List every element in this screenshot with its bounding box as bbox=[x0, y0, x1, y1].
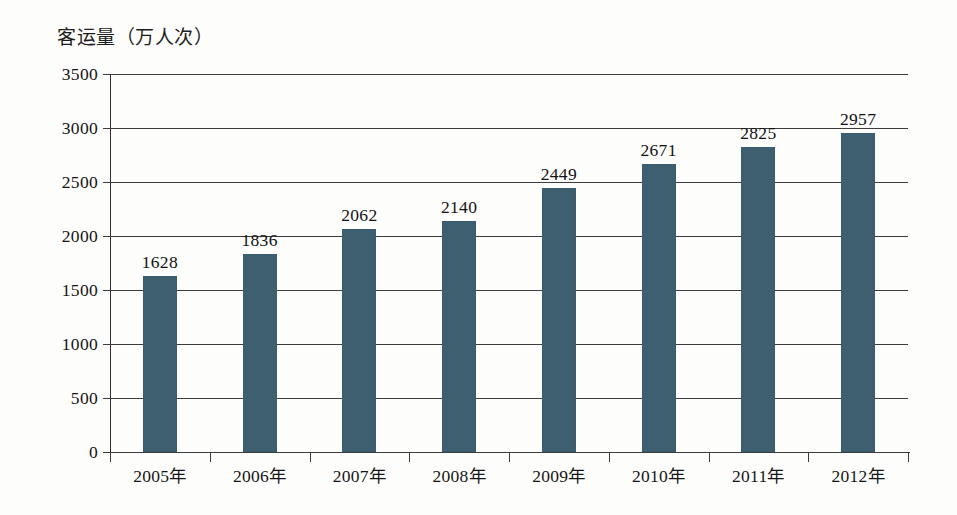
y-axis-tick-label: 3500 bbox=[46, 64, 98, 85]
bar-value-label: 2062 bbox=[327, 205, 391, 226]
x-axis-tick-label: 2011年 bbox=[712, 462, 804, 487]
x-axis-tick-label: 2007年 bbox=[313, 462, 405, 487]
y-axis-tick bbox=[103, 398, 110, 399]
bar-value-label: 1628 bbox=[128, 252, 192, 273]
bar bbox=[542, 188, 576, 452]
y-axis-tick bbox=[103, 344, 110, 345]
bar-value-label: 2140 bbox=[427, 197, 491, 218]
bar-value-label: 2671 bbox=[627, 140, 691, 161]
gridline bbox=[110, 398, 908, 399]
y-axis-tick-label: 1500 bbox=[46, 280, 98, 301]
x-axis-separator-tick bbox=[908, 453, 909, 462]
y-axis-tick-label: 1000 bbox=[46, 334, 98, 355]
x-axis-tick-label: 2005年 bbox=[114, 462, 206, 487]
y-axis-tick bbox=[103, 182, 110, 183]
gridline bbox=[110, 74, 908, 75]
bar-value-label: 2957 bbox=[826, 109, 890, 130]
y-axis-tick-label: 0 bbox=[46, 442, 98, 463]
bar-value-label: 1836 bbox=[228, 230, 292, 251]
chart-axis-title: 客运量（万人次） bbox=[57, 22, 213, 49]
bar bbox=[243, 254, 277, 452]
x-axis-separator-tick bbox=[709, 453, 710, 462]
bar bbox=[143, 276, 177, 452]
bar bbox=[841, 133, 875, 452]
x-axis-separator-tick bbox=[409, 453, 410, 462]
y-axis-tick-label: 500 bbox=[46, 388, 98, 409]
x-axis-separator-tick bbox=[808, 453, 809, 462]
gridline bbox=[110, 182, 908, 183]
bar bbox=[442, 221, 476, 452]
bar bbox=[741, 147, 775, 452]
bar bbox=[342, 229, 376, 452]
bar-chart: 客运量（万人次） 0500100015002000250030003500 16… bbox=[0, 0, 957, 515]
bar-value-label: 2449 bbox=[527, 164, 591, 185]
x-axis-separator-tick bbox=[509, 453, 510, 462]
y-axis-tick-label: 2500 bbox=[46, 172, 98, 193]
y-axis-tick-label: 3000 bbox=[46, 118, 98, 139]
x-axis-separator-tick bbox=[210, 453, 211, 462]
x-axis-tick-label: 2009年 bbox=[513, 462, 605, 487]
x-axis-tick-label: 2012年 bbox=[812, 462, 904, 487]
y-axis-tick bbox=[103, 452, 110, 453]
y-axis-tick bbox=[103, 128, 110, 129]
gridline bbox=[110, 344, 908, 345]
x-axis-tick-label: 2006年 bbox=[214, 462, 306, 487]
x-axis-tick-label: 2010年 bbox=[613, 462, 705, 487]
y-axis-tick bbox=[103, 236, 110, 237]
y-axis-tick bbox=[103, 290, 110, 291]
x-axis-separator-tick bbox=[310, 453, 311, 462]
bar bbox=[642, 164, 676, 452]
gridline bbox=[110, 290, 908, 291]
y-axis-tick bbox=[103, 74, 110, 75]
bar-value-label: 2825 bbox=[726, 123, 790, 144]
x-axis-tick-label: 2008年 bbox=[413, 462, 505, 487]
x-axis-separator-tick bbox=[110, 453, 111, 462]
x-axis-separator-tick bbox=[609, 453, 610, 462]
y-axis-tick-label: 2000 bbox=[46, 226, 98, 247]
